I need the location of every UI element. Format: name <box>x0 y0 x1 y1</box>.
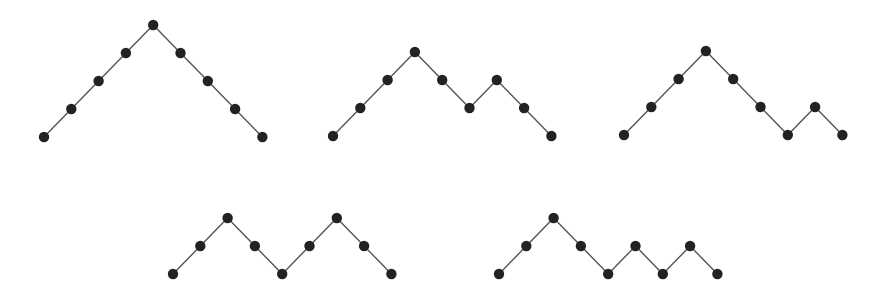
path-node-3 <box>121 48 131 58</box>
path-node-4 <box>148 20 158 30</box>
path-node-5 <box>755 102 765 112</box>
path-node-4 <box>277 269 287 279</box>
path-node-6 <box>203 76 213 86</box>
path-uuudddud <box>619 46 848 140</box>
path-node-6 <box>492 75 502 85</box>
path-node-4 <box>728 74 738 84</box>
path-node-6 <box>658 269 668 279</box>
path-node-2 <box>548 213 558 223</box>
path-node-3 <box>250 241 260 251</box>
path-node-4 <box>437 75 447 85</box>
path-edge-line <box>499 218 717 274</box>
path-node-5 <box>630 241 640 251</box>
path-node-2 <box>222 213 232 223</box>
path-node-0 <box>619 130 629 140</box>
path-node-2 <box>382 75 392 85</box>
path-node-1 <box>195 241 205 251</box>
path-node-2 <box>93 76 103 86</box>
path-node-7 <box>810 102 820 112</box>
path-node-3 <box>701 46 711 56</box>
path-edge-line <box>44 25 262 137</box>
path-node-8 <box>257 132 267 142</box>
path-node-8 <box>386 269 396 279</box>
path-node-1 <box>66 104 76 114</box>
paths-layer <box>39 20 848 279</box>
path-node-1 <box>521 241 531 251</box>
path-node-3 <box>410 47 420 57</box>
path-uuddudud <box>494 213 723 279</box>
path-node-8 <box>837 130 847 140</box>
path-uuuddudd <box>328 47 557 141</box>
path-edge-line <box>624 51 842 135</box>
path-node-5 <box>175 48 185 58</box>
path-node-5 <box>464 103 474 113</box>
path-node-0 <box>168 269 178 279</box>
path-node-8 <box>546 131 556 141</box>
path-edge-line <box>333 52 551 136</box>
path-node-1 <box>646 102 656 112</box>
path-node-7 <box>519 103 529 113</box>
path-uudduudd <box>168 213 397 279</box>
path-node-0 <box>494 269 504 279</box>
path-node-0 <box>328 131 338 141</box>
path-node-3 <box>576 241 586 251</box>
path-node-7 <box>230 104 240 114</box>
path-node-0 <box>39 132 49 142</box>
path-node-7 <box>359 241 369 251</box>
path-node-6 <box>332 213 342 223</box>
path-uuuudddd <box>39 20 268 142</box>
path-node-5 <box>304 241 314 251</box>
path-node-4 <box>603 269 613 279</box>
path-node-6 <box>783 130 793 140</box>
path-edge-line <box>173 218 391 274</box>
path-node-7 <box>685 241 695 251</box>
path-node-2 <box>673 74 683 84</box>
path-node-1 <box>355 103 365 113</box>
path-node-8 <box>712 269 722 279</box>
lattice-paths-diagram <box>0 0 891 302</box>
